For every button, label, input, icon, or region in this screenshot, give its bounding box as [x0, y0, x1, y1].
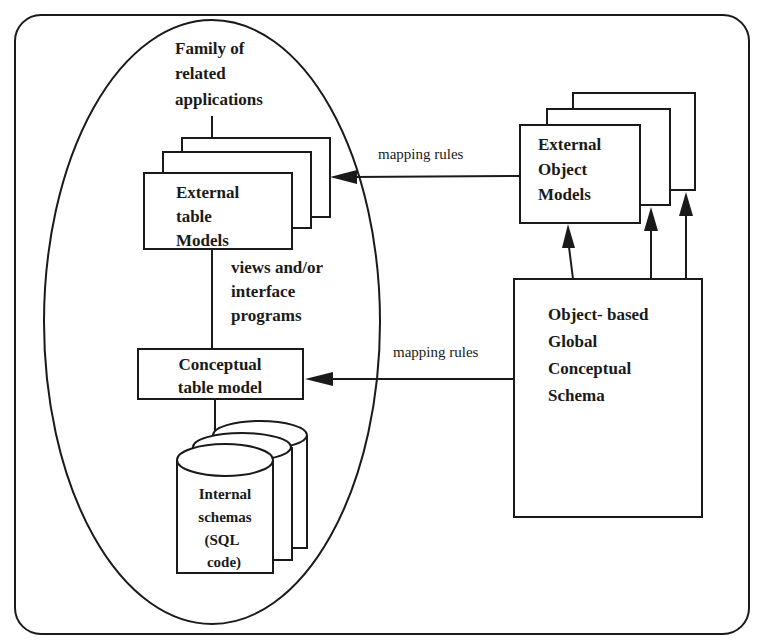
svg-text:External: External [176, 183, 240, 202]
svg-text:(SQL: (SQL [204, 532, 239, 549]
architecture-diagram: Family of related applications External … [0, 0, 766, 644]
svg-text:Schema: Schema [548, 386, 605, 405]
svg-text:interface: interface [231, 282, 296, 301]
family-of-applications-label: Family of related applications [175, 39, 263, 109]
arrowhead-icon [644, 207, 658, 231]
svg-text:External: External [538, 135, 602, 154]
external-table-models-stack: External table Models [144, 138, 330, 250]
svg-text:schemas: schemas [198, 509, 251, 525]
internal-schemas-stack: Internal schemas (SQL code) [177, 421, 307, 573]
global-conceptual-schema: Object- based Global Conceptual Schema [514, 279, 702, 517]
svg-text:views and/or: views and/or [231, 258, 324, 277]
svg-text:programs: programs [231, 306, 302, 325]
svg-text:Conceptual: Conceptual [178, 355, 261, 374]
svg-text:mapping rules: mapping rules [378, 146, 464, 162]
svg-text:applications: applications [175, 90, 263, 109]
svg-text:related: related [175, 64, 226, 83]
svg-text:table model: table model [178, 378, 263, 397]
arrowhead-icon [679, 192, 693, 216]
mapping-rules-edge-lower: mapping rules [305, 344, 514, 386]
svg-text:Models: Models [538, 185, 591, 204]
conceptual-table-model: Conceptual table model [138, 349, 303, 399]
svg-text:mapping rules: mapping rules [393, 344, 479, 360]
svg-text:Conceptual: Conceptual [548, 359, 631, 378]
svg-text:Global: Global [548, 332, 597, 351]
arrowhead-icon [562, 224, 575, 248]
external-object-models-stack: External Object Models [520, 93, 695, 223]
svg-text:table: table [176, 207, 212, 226]
arrowhead-icon [330, 170, 357, 184]
arrowhead-icon [305, 372, 333, 386]
views-label: views and/or interface programs [231, 258, 324, 325]
mapping-rules-edge-upper: mapping rules [330, 146, 520, 184]
svg-text:Object- based: Object- based [548, 305, 649, 324]
svg-text:Object: Object [538, 160, 587, 179]
svg-text:Family of: Family of [175, 39, 245, 58]
svg-text:code): code) [207, 554, 241, 571]
svg-text:Internal: Internal [199, 486, 252, 502]
svg-text:Models: Models [176, 231, 229, 250]
